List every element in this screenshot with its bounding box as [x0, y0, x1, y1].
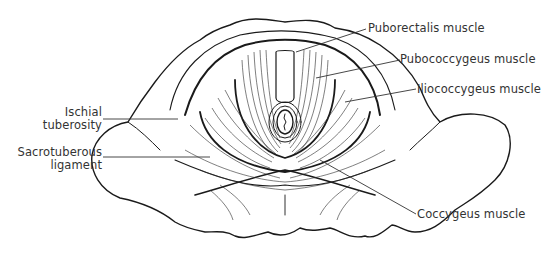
- label-sacrotuberous-ligament-line2: ligament: [5, 159, 102, 172]
- label-ischial-tuberosity-line2: tuberosity: [10, 119, 102, 132]
- label-iliococcygeus-muscle: Iliococcygeus muscle: [417, 83, 541, 96]
- label-pubococcygeus-muscle: Pubococcygeus muscle: [400, 53, 536, 66]
- label-coccygeus-muscle: Coccygeus muscle: [417, 208, 526, 221]
- label-ischial-tuberosity: Ischial tuberosity: [10, 106, 102, 132]
- label-sacrotuberous-ligament: Sacrotuberous ligament: [5, 146, 102, 172]
- label-puborectalis-muscle: Puborectalis muscle: [368, 22, 485, 35]
- pelvic-floor-diagram: Puborectalis muscle Pubococcygeus muscle…: [0, 0, 556, 256]
